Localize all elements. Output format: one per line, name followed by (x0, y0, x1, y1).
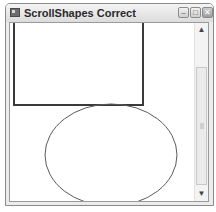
drawing-canvas (10, 23, 195, 201)
ellipse-shape (45, 104, 177, 201)
vertical-scrollbar[interactable]: ▲ ▼ (194, 23, 208, 201)
client-area: ▲ ▼ (9, 22, 209, 202)
window-title: ScrollShapes Correct (24, 7, 136, 19)
minimize-button[interactable]: – (178, 7, 189, 18)
thumb-grip-icon (200, 123, 204, 129)
title-bar[interactable]: ScrollShapes Correct – □ ✕ (6, 4, 213, 22)
rectangle-shape (14, 23, 143, 105)
scroll-down-arrow-icon[interactable]: ▼ (195, 187, 208, 201)
app-window: ScrollShapes Correct – □ ✕ ▲ ▼ (5, 3, 214, 206)
maximize-button[interactable]: □ (190, 7, 201, 18)
scroll-up-arrow-icon[interactable]: ▲ (195, 23, 208, 37)
close-button[interactable]: ✕ (202, 7, 213, 18)
app-icon[interactable] (10, 8, 20, 17)
scrollbar-thumb[interactable] (196, 67, 207, 185)
